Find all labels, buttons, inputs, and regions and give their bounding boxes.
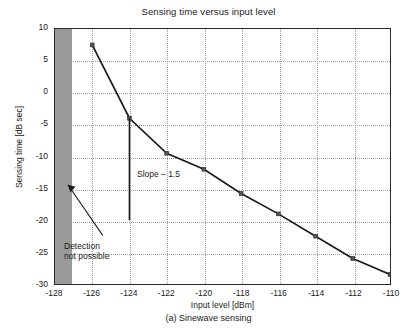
y-tick-label: -5: [0, 118, 48, 128]
y-tick-label: -15: [0, 183, 48, 193]
y-tick-label: -25: [0, 247, 48, 257]
x-tick-label: -118: [221, 288, 261, 298]
data-point-marker: [239, 192, 243, 196]
x-tick-label: -112: [334, 288, 374, 298]
x-tick-label: -126: [71, 288, 111, 298]
figure-container: Sensing time versus input level Slope – …: [0, 0, 417, 329]
x-axis-label: Input level [dBm]: [54, 300, 391, 310]
detection-annotation: Detectionnot possible: [64, 241, 109, 262]
y-tick-label: -20: [0, 215, 48, 225]
data-point-marker: [202, 167, 206, 171]
data-point-marker: [90, 43, 94, 47]
chart-title: Sensing time versus input level: [0, 6, 417, 17]
y-tick-label: 5: [0, 54, 48, 64]
data-point-marker: [351, 257, 355, 261]
annotation-arrow-line: [68, 185, 103, 236]
y-tick-label: -10: [0, 151, 48, 161]
data-point-marker: [388, 273, 391, 277]
figure-caption: (a) Sinewave sensing: [0, 313, 417, 323]
x-tick-label: -110: [371, 288, 411, 298]
x-tick-label: -124: [109, 288, 149, 298]
x-tick-label: -128: [34, 288, 74, 298]
data-point-marker: [165, 151, 169, 155]
data-point-marker: [276, 212, 280, 216]
x-tick-label: -114: [296, 288, 336, 298]
y-tick-label: 0: [0, 86, 48, 96]
x-tick-label: -122: [146, 288, 186, 298]
x-tick-label: -120: [184, 288, 224, 298]
y-tick-label: 10: [0, 22, 48, 32]
series-line: [92, 45, 390, 275]
data-point-marker: [314, 234, 318, 238]
slope-annotation: Slope – 1.5: [137, 169, 180, 179]
plot-area: Slope – 1.5 Detectionnot possible: [54, 28, 391, 285]
x-tick-label: -116: [259, 288, 299, 298]
y-axis-label: Sensing time [dB sec]: [14, 67, 24, 227]
annotation-arrow-head: [68, 185, 75, 193]
y-tick-label: -30: [0, 279, 48, 289]
